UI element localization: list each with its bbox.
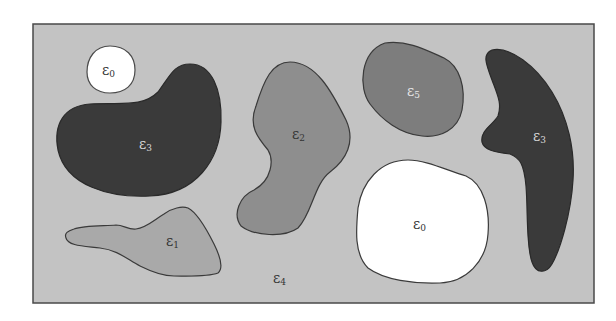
epsilon-region-diagram: ε0 ε3 ε2 ε5 ε3 ε0 ε1 ε4 [0,0,616,321]
region-epsilon-0-large [357,160,489,283]
